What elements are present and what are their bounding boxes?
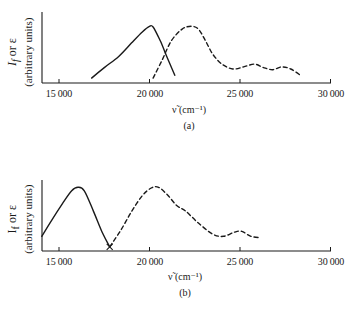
plot-area-b — [0, 150, 361, 309]
x-tick-label-25000-b: 25 000 — [227, 256, 253, 267]
x-tick-label-20000-b: 20 000 — [137, 256, 163, 267]
x-tick-label-15000-a: 15 000 — [46, 88, 72, 99]
chart-panel-a: If or ε (arbitrary units) 15 000 20 000 … — [0, 0, 361, 150]
fluorescence-curve — [42, 187, 110, 247]
plot-area-a — [0, 0, 361, 150]
x-tick-label-30000-b: 30 000 — [318, 256, 344, 267]
chart-panel-b: If or ε (arbitrary units) 15 000 20 000 … — [0, 150, 361, 309]
absorption-curve — [110, 187, 260, 247]
crossing-point-marker — [107, 244, 113, 250]
x-axis-label-b: ν̃ (cm⁻¹) — [168, 271, 202, 282]
fluorescence-curve — [92, 25, 175, 78]
x-tick-label-25000-a: 25 000 — [227, 88, 253, 99]
x-tick-label-20000-a: 20 000 — [137, 88, 163, 99]
x-tick-label-30000-a: 30 000 — [318, 88, 344, 99]
x-axis-label-a: ν̃ (cm⁻¹) — [172, 104, 206, 115]
y-axis-label-b: If or ε (arbitrary units) — [6, 169, 34, 269]
x-tick-label-15000-b: 15 000 — [46, 256, 72, 267]
panel-caption-a: (a) — [183, 120, 194, 131]
y-axis-label-a: If or ε (arbitrary units) — [6, 2, 34, 102]
panel-caption-b: (b) — [179, 287, 191, 298]
absorption-curve — [153, 26, 301, 78]
